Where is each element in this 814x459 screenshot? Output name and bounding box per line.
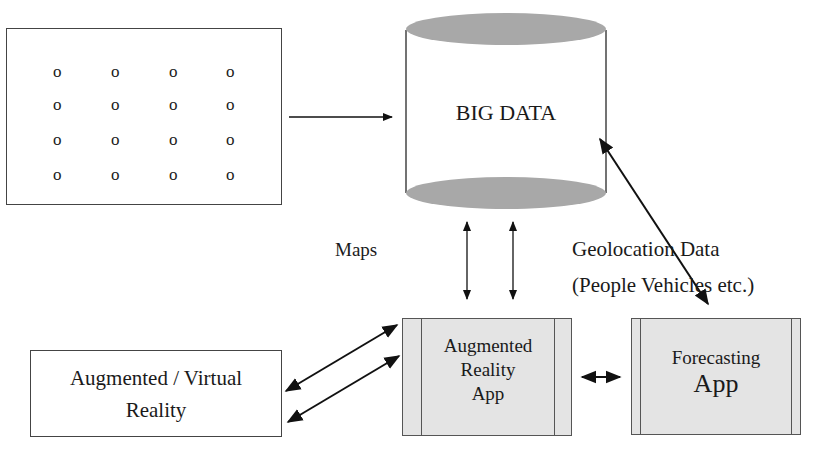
ar-app-box: Augmented Reality App	[402, 318, 572, 436]
geolocation-line1: Geolocation Data	[572, 232, 754, 268]
forecasting-line2: App	[640, 369, 792, 399]
ar-app-line1: Augmented	[421, 334, 555, 358]
av-reality-line2: Reality	[31, 395, 281, 427]
ar-app-line2: Reality	[421, 358, 555, 382]
geolocation-label: Geolocation Data (People Vehicles etc.)	[572, 232, 754, 303]
arrow-av-ar-2	[288, 356, 399, 422]
forecasting-app-box: Forecasting App	[631, 318, 801, 435]
arrow-av-ar-1	[286, 325, 397, 391]
av-reality-line1: Augmented / Virtual	[31, 363, 281, 395]
geolocation-line2: (People Vehicles etc.)	[572, 268, 754, 304]
forecasting-line1: Forecasting	[640, 347, 792, 369]
av-reality-box: Augmented / Virtual Reality	[30, 350, 282, 437]
big-data-label: BIG DATA	[406, 100, 606, 125]
maps-label: Maps	[335, 239, 377, 261]
ar-app-line3: App	[421, 382, 555, 406]
